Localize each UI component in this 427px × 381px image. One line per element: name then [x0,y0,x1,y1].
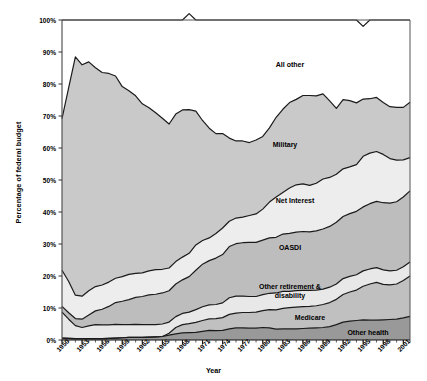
series-label-other-health: Other health [347,328,388,337]
y-axis-title: Percentage of federal budget [14,83,23,263]
series-label-net-interest: Net Interest [276,196,315,205]
y-tick-label: 20% [20,273,56,280]
series-label-military: Military [273,140,298,149]
series-label-medicare: Medicare [295,313,325,322]
y-tick-label: 10% [20,305,56,312]
series-label-oasdi: OASDI [279,243,301,252]
series-label-other-retirement-disability: Other retirement & disability [258,282,322,300]
y-tick-label: 0% [20,337,56,344]
y-tick-label: 30% [20,241,56,248]
x-axis-title: Year [0,366,427,375]
stacked-area-chart [0,0,427,381]
y-tick-label: 50% [20,177,56,184]
y-tick-label: 80% [20,81,56,88]
y-tick-label: 70% [20,113,56,120]
y-tick-label: 60% [20,145,56,152]
y-tick-label: 100% [20,17,56,24]
y-tick-label: 40% [20,209,56,216]
chart-container: Percentage of federal budget Year 0%10%2… [0,0,427,381]
y-tick-label: 90% [20,49,56,56]
series-label-all-other: All other [276,60,304,69]
